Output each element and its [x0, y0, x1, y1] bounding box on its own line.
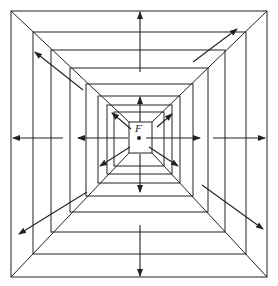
arrow-icon	[19, 192, 87, 234]
diagram-canvas: F	[0, 0, 278, 286]
corner-diagonals	[11, 11, 267, 277]
arrow-icon	[35, 52, 83, 90]
center-dot	[137, 136, 141, 140]
corner-diagonal	[152, 153, 267, 277]
arrow-icon	[193, 29, 237, 62]
center-point	[137, 136, 141, 140]
center-label: F	[135, 122, 142, 134]
arrow-icon	[202, 185, 263, 229]
nested-squares-diagram	[0, 0, 278, 286]
corner-diagonal	[152, 11, 267, 122]
